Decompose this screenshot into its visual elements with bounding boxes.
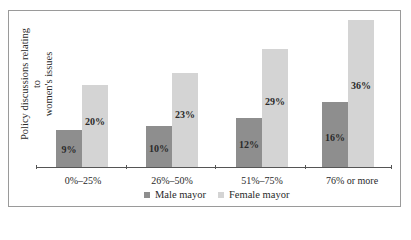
x-axis-tick xyxy=(391,165,392,169)
x-axis xyxy=(36,167,392,168)
y-axis-label: Policy discussions relating to women's i… xyxy=(19,25,139,145)
legend: Male mayor Female mayor xyxy=(144,189,301,200)
x-axis-tick xyxy=(126,165,127,169)
x-axis-tick xyxy=(215,165,216,169)
category-label: 51%–75% xyxy=(217,175,307,186)
bar-value-label: 16% xyxy=(322,132,348,143)
bar-value-label: 9% xyxy=(56,144,82,155)
category-label: 76% or more xyxy=(307,175,397,186)
bar-value-label: 20% xyxy=(82,116,108,127)
y-axis-label-line1: Policy discussions relating to xyxy=(19,25,43,143)
legend-swatch-female xyxy=(218,192,224,198)
bar-value-label: 23% xyxy=(172,109,198,120)
legend-item-male: Male mayor xyxy=(144,189,206,200)
legend-item-female: Female mayor xyxy=(218,189,289,200)
bar-value-label: 36% xyxy=(348,80,374,91)
bar-female-mayor xyxy=(348,20,374,167)
legend-label-male: Male mayor xyxy=(155,189,206,200)
legend-swatch-male xyxy=(144,192,150,198)
y-axis-label-line2: women's issues xyxy=(43,25,55,143)
legend-label-female: Female mayor xyxy=(229,189,289,200)
category-label: 0%–25% xyxy=(38,175,128,186)
bar-value-label: 10% xyxy=(146,143,172,154)
category-label: 26%–50% xyxy=(127,175,217,186)
bar-value-label: 12% xyxy=(236,139,262,150)
x-axis-tick xyxy=(305,165,306,169)
x-axis-tick xyxy=(36,165,37,169)
bar-value-label: 29% xyxy=(262,96,288,107)
bar-female-mayor xyxy=(262,49,288,167)
